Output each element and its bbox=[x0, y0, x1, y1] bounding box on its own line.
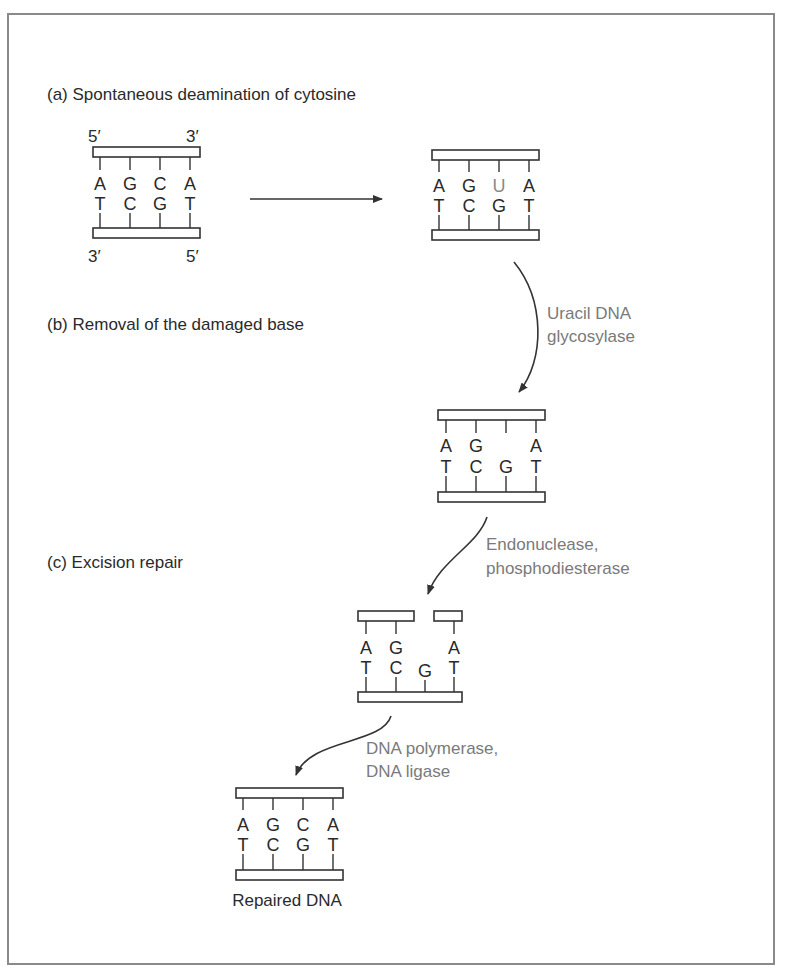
base: A bbox=[94, 174, 106, 194]
top-strand-backbone bbox=[93, 147, 200, 157]
top-strand-backbone bbox=[432, 150, 539, 160]
enzyme-label: Endonuclease, bbox=[486, 535, 598, 554]
section-a-label: (a) Spontaneous deamination of cytosine bbox=[47, 85, 356, 104]
base: C bbox=[154, 174, 167, 194]
bottom-strand-backbone bbox=[432, 230, 539, 240]
duplex-original: 5′ 3′ A G C A T C G T 3′ 5′ bbox=[88, 127, 200, 266]
base: G bbox=[389, 638, 403, 658]
bottom-strand-backbone bbox=[358, 692, 462, 702]
duplex-deaminated: A G U A T C G T bbox=[432, 150, 539, 240]
strand-end-5prime-bottom: 5′ bbox=[186, 247, 199, 266]
base: A bbox=[237, 815, 249, 835]
base: T bbox=[531, 457, 542, 477]
base: T bbox=[434, 196, 445, 216]
uracil-damaged-base: U bbox=[493, 176, 506, 196]
base: G bbox=[123, 174, 137, 194]
base: A bbox=[523, 176, 535, 196]
base: T bbox=[328, 835, 339, 855]
duplex-repaired: A G C A T C G T Repaired DNA bbox=[232, 788, 343, 910]
base: C bbox=[297, 815, 310, 835]
base: C bbox=[470, 457, 483, 477]
base: A bbox=[530, 436, 542, 456]
curved-arrow-icon bbox=[514, 262, 538, 392]
enzyme-label: DNA ligase bbox=[366, 762, 450, 781]
section-c-label: (c) Excision repair bbox=[47, 553, 183, 572]
repaired-dna-caption: Repaired DNA bbox=[232, 891, 342, 910]
strand-end-3prime-top: 3′ bbox=[186, 127, 199, 146]
strand-end-5prime-top: 5′ bbox=[88, 127, 101, 146]
base: G bbox=[469, 436, 483, 456]
top-strand-backbone bbox=[438, 410, 545, 420]
base: G bbox=[296, 835, 310, 855]
base: G bbox=[266, 815, 280, 835]
base: C bbox=[267, 835, 280, 855]
curved-arrow-icon bbox=[428, 517, 487, 594]
base: A bbox=[184, 174, 196, 194]
base: T bbox=[238, 835, 249, 855]
dna-repair-diagram: (a) Spontaneous deamination of cytosine … bbox=[0, 0, 790, 971]
duplex-base-removed: A G A T C G T bbox=[438, 410, 545, 502]
enzyme-label: phosphodiesterase bbox=[486, 559, 630, 578]
base: T bbox=[441, 457, 452, 477]
enzyme-label: DNA polymerase, bbox=[366, 739, 498, 758]
base: G bbox=[462, 176, 476, 196]
bottom-strand-backbone bbox=[236, 870, 343, 880]
bottom-strand-backbone bbox=[438, 492, 545, 502]
base: C bbox=[463, 196, 476, 216]
base: T bbox=[449, 658, 460, 678]
base: G bbox=[418, 661, 432, 681]
base: G bbox=[153, 194, 167, 214]
base: C bbox=[390, 658, 403, 678]
strand-end-3prime-bottom: 3′ bbox=[88, 247, 101, 266]
bottom-strand-backbone bbox=[93, 228, 200, 238]
section-b-label: (b) Removal of the damaged base bbox=[47, 315, 304, 334]
top-strand-fragment-right bbox=[434, 611, 462, 621]
base: A bbox=[433, 176, 445, 196]
base: T bbox=[95, 194, 106, 214]
base: A bbox=[448, 638, 460, 658]
base: A bbox=[327, 815, 339, 835]
base: G bbox=[499, 457, 513, 477]
base: T bbox=[185, 194, 196, 214]
base: A bbox=[360, 638, 372, 658]
base: A bbox=[440, 436, 452, 456]
enzyme-label: glycosylase bbox=[547, 327, 635, 346]
enzyme-label: Uracil DNA bbox=[547, 304, 632, 323]
base: C bbox=[124, 194, 137, 214]
top-strand-backbone bbox=[236, 788, 343, 798]
base: T bbox=[524, 196, 535, 216]
duplex-excised: A G A T C G T bbox=[358, 611, 462, 702]
base: G bbox=[492, 196, 506, 216]
top-strand-fragment-left bbox=[358, 611, 414, 621]
base: T bbox=[361, 658, 372, 678]
